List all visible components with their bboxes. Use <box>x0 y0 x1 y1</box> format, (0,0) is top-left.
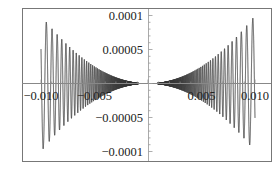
x-tick-label: 0.010 <box>241 89 269 103</box>
y-tick-label: 0.00005 <box>102 43 143 57</box>
plot-frame <box>23 9 272 162</box>
plot-area: −0.010 −0.005 0.005 0.010 0.0001 0.00005… <box>0 0 279 169</box>
y-tick-label: 0.0001 <box>109 9 143 23</box>
x-tick-label: −0.010 <box>23 89 58 103</box>
x-tick-label: 0.005 <box>187 89 215 103</box>
y-tick-label: −0.0001 <box>102 145 143 159</box>
y-tick-label: −0.00005 <box>95 111 143 125</box>
x-tick-label: −0.005 <box>77 89 112 103</box>
